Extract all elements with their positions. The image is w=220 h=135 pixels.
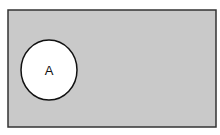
venn-diagram: A xyxy=(0,0,220,135)
set-a-label: A xyxy=(45,63,54,78)
